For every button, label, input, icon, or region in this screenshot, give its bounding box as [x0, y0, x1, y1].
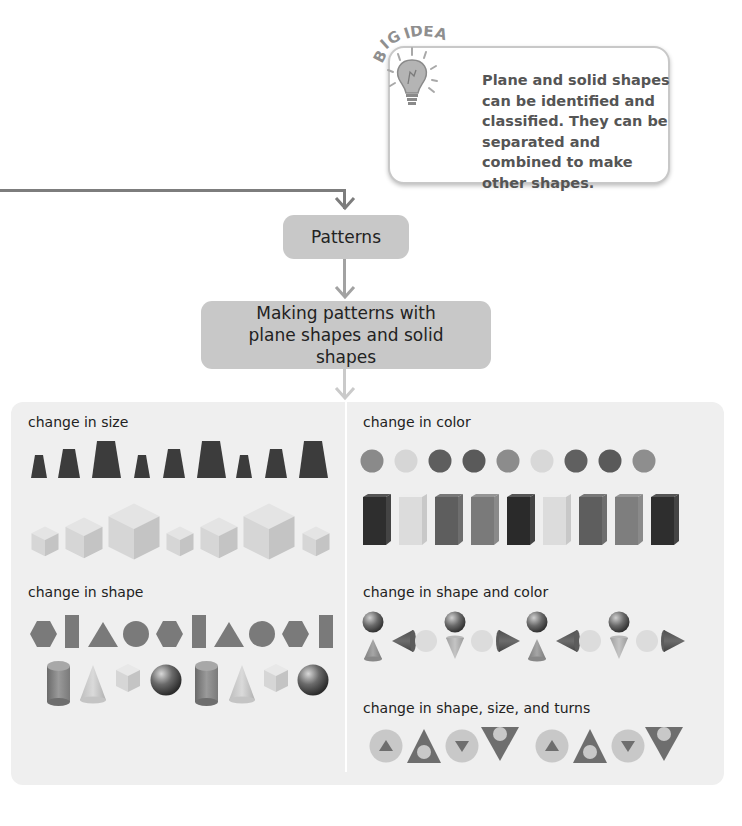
- shape-size-turns-row: [0, 0, 742, 826]
